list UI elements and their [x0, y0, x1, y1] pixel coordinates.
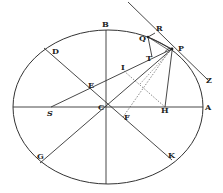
label-D: D: [52, 47, 59, 55]
label-S: S: [47, 109, 53, 117]
diagram-canvas: B R Q P T D I Z E S C H A F G K: [0, 0, 223, 193]
point-P: [171, 48, 174, 51]
label-Q: Q: [139, 34, 146, 42]
segment-QP-2: [148, 37, 170, 51]
ellipse-diagram: [0, 0, 223, 193]
label-G: G: [37, 152, 44, 160]
label-P: P: [178, 44, 184, 52]
label-C: C: [98, 103, 104, 111]
segment-HP-dotted: [140, 49, 172, 84]
label-I: I: [121, 63, 125, 71]
segment-IH: [124, 71, 165, 107]
focal-radius-HP: [165, 51, 172, 107]
label-B: B: [102, 20, 109, 28]
focal-radius-SP: [51, 49, 172, 107]
label-T: T: [146, 54, 152, 62]
label-A: A: [205, 103, 211, 111]
label-Z: Z: [206, 76, 212, 84]
segment-QR: [148, 33, 155, 37]
label-K: K: [168, 151, 175, 159]
label-E: E: [88, 81, 94, 89]
label-F: F: [124, 113, 130, 121]
label-H: H: [161, 106, 169, 114]
label-R: R: [156, 24, 163, 32]
segment-QP: [148, 37, 172, 49]
point-Q: [147, 36, 149, 38]
